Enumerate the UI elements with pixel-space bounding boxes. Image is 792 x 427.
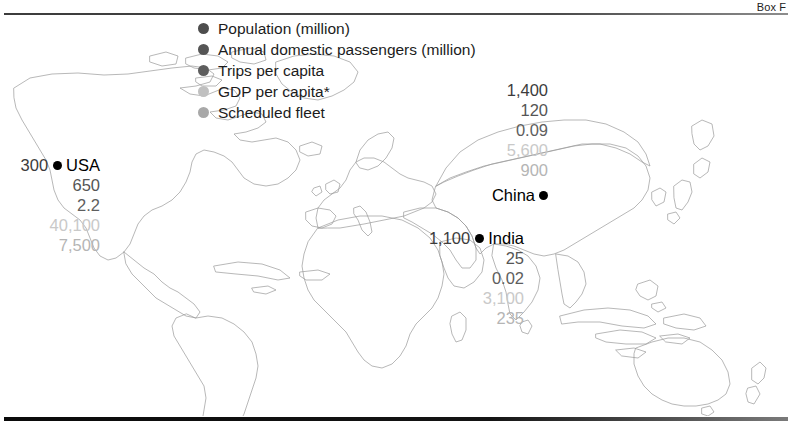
figure-title-clipped — [0, 0, 792, 3]
legend-item-population: Population (million) — [198, 18, 476, 39]
india-map-marker-icon — [475, 234, 484, 243]
legend: Population (million) Annual domestic pas… — [198, 18, 476, 123]
box-f-figure: Box F — [0, 0, 792, 427]
usa-values: 300 USA 650 2.2 40,100 7,500 — [30, 155, 100, 255]
china-value-trips-per-capita: 0.09 — [470, 120, 548, 140]
country-group-india: 1,100 India 25 0.02 3,100 235 — [462, 228, 524, 328]
legend-item-gdp-per-capita: GDP per capita* — [198, 81, 476, 102]
china-country-label: China — [492, 186, 535, 205]
india-population-row: 1,100 India — [462, 228, 524, 248]
india-country-label: India — [488, 229, 524, 248]
china-label-row: China — [470, 186, 548, 205]
china-value-population: 1,400 — [470, 80, 548, 100]
usa-country-label: USA — [66, 156, 100, 175]
box-label: Box F — [757, 1, 786, 13]
legend-label-trips-per-capita: Trips per capita — [218, 63, 324, 79]
usa-value-trips-per-capita: 2.2 — [30, 195, 100, 215]
legend-item-passengers: Annual domestic passengers (million) — [198, 39, 476, 60]
india-value-scheduled-fleet: 235 — [462, 308, 524, 328]
legend-bullet-trips-icon — [198, 65, 209, 76]
china-value-passengers: 120 — [470, 100, 548, 120]
country-group-usa: 300 USA 650 2.2 40,100 7,500 — [30, 155, 100, 255]
legend-bullet-population-icon — [198, 23, 209, 34]
china-value-gdp-per-capita: 5,600 — [470, 140, 548, 160]
legend-item-trips-per-capita: Trips per capita — [198, 60, 476, 81]
top-rule — [4, 13, 788, 15]
usa-map-marker-icon — [53, 161, 62, 170]
china-values: 1,400 120 0.09 5,600 900 China — [470, 80, 548, 205]
legend-label-passengers: Annual domestic passengers (million) — [218, 42, 476, 58]
usa-value-scheduled-fleet: 7,500 — [30, 235, 100, 255]
china-map-marker-icon — [539, 191, 548, 200]
legend-label-scheduled-fleet: Scheduled fleet — [218, 105, 325, 121]
india-value-passengers: 25 — [462, 248, 524, 268]
india-value-gdp-per-capita: 3,100 — [462, 288, 524, 308]
usa-population-row: 300 USA — [30, 155, 100, 175]
legend-label-population: Population (million) — [218, 21, 350, 37]
usa-value-population: 300 — [21, 155, 49, 175]
india-value-population: 1,100 — [429, 228, 470, 248]
legend-bullet-passengers-icon — [198, 44, 209, 55]
bottom-rule — [4, 417, 788, 421]
china-value-scheduled-fleet: 900 — [470, 160, 548, 180]
india-values: 1,100 India 25 0.02 3,100 235 — [462, 228, 524, 328]
legend-bullet-fleet-icon — [198, 107, 209, 118]
country-group-china: 1,400 120 0.09 5,600 900 China — [470, 80, 548, 205]
usa-value-gdp-per-capita: 40,100 — [30, 215, 100, 235]
usa-value-passengers: 650 — [30, 175, 100, 195]
india-value-trips-per-capita: 0.02 — [462, 268, 524, 288]
legend-bullet-gdp-icon — [198, 86, 209, 97]
legend-label-gdp-per-capita: GDP per capita* — [218, 84, 330, 100]
legend-item-scheduled-fleet: Scheduled fleet — [198, 102, 476, 123]
